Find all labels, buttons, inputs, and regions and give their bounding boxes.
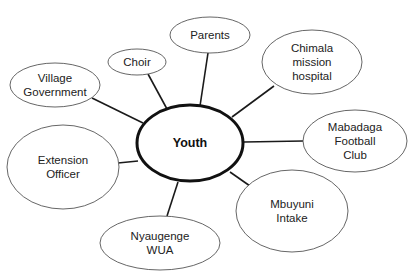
edge-youth-parents [200, 53, 208, 106]
edge-youth-nyaugenge-wua [167, 182, 178, 216]
node-extension-officer: ExtensionOfficer [7, 125, 119, 209]
node-mabadaga-football-club: MabadagaFootballClub [303, 110, 407, 172]
edge-youth-extension-officer [118, 161, 138, 163]
node-parents: Parents [170, 17, 250, 53]
node-mbuyuni-intake: MbuyuniIntake [236, 170, 348, 252]
edge-youth-choir [148, 74, 167, 109]
node-label: Chimalamissionhospital [291, 42, 334, 82]
node-label: Choir [123, 56, 151, 68]
center-label: Youth [173, 136, 207, 150]
edge-youth-village-government [92, 98, 143, 123]
edge-youth-mbuyuni-intake [230, 172, 250, 186]
center-node-youth: Youth [137, 105, 243, 181]
node-ellipse [236, 170, 348, 252]
stakeholder-diagram: ChoirParentsChimalamissionhospitalVillag… [0, 0, 414, 279]
edge-youth-mabadaga-football-club [244, 141, 303, 142]
node-label: Parents [190, 29, 230, 41]
node-chimala-mission-hospital: Chimalamissionhospital [262, 30, 362, 94]
edge-youth-chimala-mission-hospital [232, 86, 274, 117]
node-ellipse [100, 216, 220, 270]
node-village-government: VillageGovernment [10, 63, 100, 107]
node-ellipse [10, 63, 100, 107]
node-ellipse [7, 125, 119, 209]
node-nyaugenge-wua: NyaugengeWUA [100, 216, 220, 270]
node-choir: Choir [108, 49, 166, 75]
